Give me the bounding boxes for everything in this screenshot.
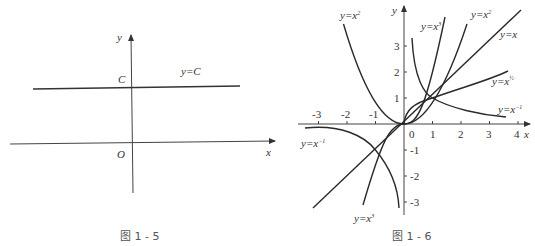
x-tick-label: -1 — [369, 108, 378, 120]
intercept-label: C — [118, 73, 126, 85]
label-x: y=x — [499, 28, 517, 40]
line-label: y=C — [180, 65, 201, 77]
label-x-half: y=x½ — [491, 75, 514, 87]
x-tick-label: -2 — [341, 108, 350, 120]
origin-label: O — [117, 148, 125, 160]
label-x-inv-left: y=x−1 — [300, 137, 325, 149]
y-tick-label: -3 — [410, 196, 420, 208]
label-x-inv: y=x−1 — [497, 103, 522, 115]
x-axis — [10, 141, 275, 144]
constant-line — [33, 86, 240, 89]
x-tick-label: 3 — [486, 128, 492, 140]
x-axis-label: x — [265, 146, 271, 158]
figure-caption: 图 1 - 5 — [120, 230, 159, 243]
y-axis-label: y — [116, 31, 122, 43]
x-tick-label: 4 — [514, 128, 520, 140]
x-axis-label: x — [523, 128, 529, 140]
y-tick-label: 2 — [394, 66, 400, 78]
y-tick-label: 3 — [394, 40, 400, 52]
figure-1-5: y x O C y=C 图 1 - 5 — [10, 31, 275, 243]
figures-canvas: y x O C y=C 图 1 - 5 -3 -2 -1 0 — [0, 0, 535, 246]
y-tick-label: 1 — [394, 92, 400, 104]
label-x-squared: y=x2 — [470, 8, 491, 20]
x-tick-label: 0 — [409, 128, 415, 140]
x-tick-label: 2 — [458, 128, 464, 140]
x-tick-label: 1 — [430, 128, 436, 140]
label-x-cubed-top: y=x3 — [420, 20, 441, 32]
x-tick-label: -3 — [312, 108, 322, 120]
y-tick-label: -2 — [410, 170, 419, 182]
figure-caption: 图 1 - 6 — [392, 230, 431, 243]
y-axis-label: y — [391, 4, 397, 16]
y-tick-label: -1 — [410, 144, 419, 156]
label-x-squared-left: y=x2 — [339, 9, 360, 21]
figure-1-6: -3 -2 -1 0 1 2 3 4 x 3 2 1 -1 -2 -3 y — [298, 4, 530, 243]
curve-y-x-squared — [344, 24, 468, 124]
y-axis — [131, 35, 133, 193]
label-x-cubed-bottom: y=x3 — [353, 212, 374, 224]
